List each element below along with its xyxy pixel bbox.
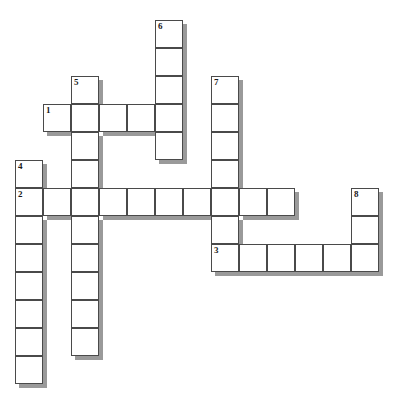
cell-shadow-right — [43, 304, 47, 332]
crossword-cell[interactable] — [211, 216, 239, 244]
cell-shadow-right — [43, 332, 47, 360]
cell-shadow-right — [183, 80, 187, 108]
cell-shadow-right — [183, 52, 187, 80]
crossword-cell[interactable] — [43, 104, 71, 132]
crossword-cell[interactable] — [99, 104, 127, 132]
crossword-cell[interactable] — [71, 300, 99, 328]
crossword-cell[interactable] — [71, 188, 99, 216]
cell-shadow-bottom — [19, 384, 47, 388]
crossword-cell[interactable] — [127, 104, 155, 132]
crossword-cell[interactable] — [183, 188, 211, 216]
cell-shadow-right — [99, 248, 103, 276]
crossword-cell[interactable] — [71, 244, 99, 272]
cell-shadow-right — [99, 220, 103, 248]
crossword-cell[interactable] — [127, 188, 155, 216]
crossword-cell[interactable] — [155, 104, 183, 132]
crossword-cell[interactable] — [15, 272, 43, 300]
crossword-cell[interactable] — [155, 76, 183, 104]
cell-shadow-right — [183, 24, 187, 52]
cell-shadow-bottom — [103, 132, 131, 136]
crossword-cell[interactable] — [211, 244, 239, 272]
crossword-cell[interactable] — [323, 244, 351, 272]
crossword-cell[interactable] — [71, 76, 99, 104]
cell-shadow-bottom — [159, 216, 187, 220]
cell-shadow-right — [379, 192, 383, 220]
crossword-cell[interactable] — [15, 160, 43, 188]
cell-shadow-right — [239, 80, 243, 108]
crossword-cell[interactable] — [211, 76, 239, 104]
crossword-cell[interactable] — [15, 216, 43, 244]
cell-shadow-right — [43, 248, 47, 276]
cell-shadow-bottom — [131, 216, 159, 220]
crossword-cell[interactable] — [155, 132, 183, 160]
crossword-cell[interactable] — [71, 328, 99, 356]
crossword-cell[interactable] — [99, 188, 127, 216]
cell-shadow-bottom — [299, 272, 327, 276]
crossword-cell[interactable] — [15, 188, 43, 216]
crossword-cell[interactable] — [211, 188, 239, 216]
cell-shadow-bottom — [103, 216, 131, 220]
crossword-cell[interactable] — [43, 188, 71, 216]
cell-shadow-right — [239, 136, 243, 164]
crossword-cell[interactable] — [71, 104, 99, 132]
cell-shadow-right — [99, 136, 103, 164]
crossword-cell[interactable] — [155, 20, 183, 48]
crossword-cell[interactable] — [71, 272, 99, 300]
cell-shadow-right — [99, 304, 103, 332]
crossword-cell[interactable] — [239, 188, 267, 216]
crossword-cell[interactable] — [267, 244, 295, 272]
cell-shadow-right — [239, 108, 243, 136]
crossword-cell[interactable] — [155, 188, 183, 216]
cell-shadow-bottom — [215, 272, 243, 276]
crossword-cell[interactable] — [71, 160, 99, 188]
crossword-cell[interactable] — [239, 244, 267, 272]
crossword-cell[interactable] — [351, 188, 379, 216]
crossword-cell[interactable] — [211, 104, 239, 132]
crossword-cell[interactable] — [15, 300, 43, 328]
crossword-cell[interactable] — [267, 188, 295, 216]
crossword-cell[interactable] — [155, 48, 183, 76]
cell-shadow-bottom — [355, 272, 383, 276]
cell-shadow-bottom — [243, 272, 271, 276]
cell-shadow-bottom — [159, 160, 187, 164]
cell-shadow-bottom — [327, 272, 355, 276]
cell-shadow-bottom — [243, 216, 271, 220]
cell-shadow-right — [43, 276, 47, 304]
crossword-cell[interactable] — [211, 160, 239, 188]
cell-shadow-bottom — [271, 216, 299, 220]
crossword-cell[interactable] — [295, 244, 323, 272]
crossword-cell[interactable] — [15, 356, 43, 384]
crossword-cell[interactable] — [211, 132, 239, 160]
cell-shadow-right — [99, 276, 103, 304]
crossword-cell[interactable] — [351, 216, 379, 244]
crossword-cell[interactable] — [15, 328, 43, 356]
cell-shadow-right — [379, 220, 383, 248]
cell-shadow-right — [43, 220, 47, 248]
crossword-grid: 12345678 — [0, 0, 395, 402]
cell-shadow-bottom — [271, 272, 299, 276]
cell-shadow-right — [183, 108, 187, 136]
crossword-cell[interactable] — [71, 216, 99, 244]
crossword-cell[interactable] — [351, 244, 379, 272]
cell-shadow-bottom — [75, 356, 103, 360]
crossword-cell[interactable] — [71, 132, 99, 160]
crossword-cell[interactable] — [15, 244, 43, 272]
